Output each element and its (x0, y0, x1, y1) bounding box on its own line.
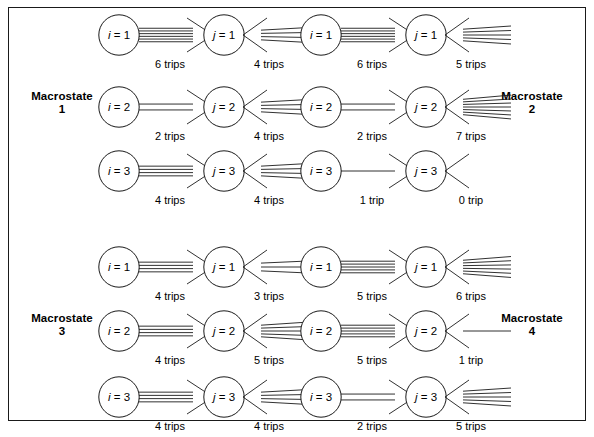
trip-count-label: 1 trip (405, 354, 523, 366)
node-label: j = 1 (405, 14, 447, 56)
node-label: j = 3 (203, 376, 245, 418)
trip-line (463, 388, 511, 391)
equals-sign: = (114, 165, 121, 177)
macrostate-label-number: 1 (14, 103, 110, 116)
arrowhead-stroke (445, 267, 469, 284)
macrostate-label-number: 3 (14, 325, 110, 338)
node-index: 2 (229, 101, 235, 113)
trip-line (463, 95, 511, 99)
node-index: 1 (229, 29, 235, 41)
node-label: i = 2 (98, 86, 140, 128)
trip-line (463, 261, 511, 263)
macrostate-label-word: Macrostate (31, 90, 93, 102)
node-symbol: i (108, 261, 111, 273)
node-index: 3 (431, 165, 437, 177)
equals-sign: = (219, 391, 226, 403)
trip-count-label: 5 trips (300, 354, 418, 366)
trip-count-label: 6 trips (98, 58, 216, 70)
node-symbol: i (310, 101, 313, 113)
equals-sign: = (219, 325, 226, 337)
node-label: i = 2 (98, 310, 140, 352)
node-index: 1 (326, 261, 332, 273)
trip-count-label: 1 trip (300, 194, 418, 206)
equals-sign: = (316, 325, 323, 337)
node-label: i = 1 (300, 14, 342, 56)
node-symbol: j (415, 391, 418, 403)
node-label: j = 3 (203, 150, 245, 192)
arrow-unit-i1-r3-c2: i = 15 trips (300, 246, 418, 308)
node-index: 1 (431, 261, 437, 273)
trip-line (463, 103, 511, 104)
arrowhead-stroke (445, 250, 469, 267)
node-label: i = 1 (98, 246, 140, 288)
arrow-unit-i1-r0-c2: i = 16 trips (300, 14, 418, 76)
equals-sign: = (316, 391, 323, 403)
node-index: 2 (229, 325, 235, 337)
arrowhead-stroke (243, 154, 267, 171)
arrow-unit-i3-r5-c0: i = 34 trips (98, 376, 216, 437)
node-label: j = 2 (203, 86, 245, 128)
node-symbol: i (310, 165, 313, 177)
arrow-unit-j1-r0-c3: j = 15 trips (405, 14, 523, 76)
trip-line (463, 31, 511, 33)
trip-line (463, 99, 511, 102)
trip-count-label: 5 trips (405, 420, 523, 432)
equals-sign: = (114, 101, 121, 113)
arrowhead-stroke (243, 250, 267, 267)
node-index: 2 (326, 101, 332, 113)
macrostate-label-3: Macrostate3 (14, 312, 110, 338)
trip-line (463, 393, 511, 395)
trip-line (463, 403, 511, 406)
arrow-unit-i2-r1-c0: i = 22 trips (98, 86, 216, 148)
figure-root: Macrostate1Macrostate2Macrostate3Macrost… (0, 0, 594, 437)
arrowhead-stroke (243, 267, 267, 284)
node-symbol: j (415, 29, 418, 41)
arrowhead-stroke (243, 380, 267, 397)
equals-sign: = (421, 261, 428, 273)
arrow-unit-j2-r4-c3: j = 21 trip (405, 310, 523, 372)
arrowhead-stroke (243, 35, 267, 52)
node-index: 3 (124, 391, 130, 403)
node-index: 1 (326, 29, 332, 41)
arrowhead-stroke (243, 18, 267, 35)
node-symbol: i (108, 29, 111, 41)
node-label: j = 2 (405, 86, 447, 128)
arrowhead-stroke (445, 314, 469, 331)
arrow-unit-j1-r3-c3: j = 16 trips (405, 246, 523, 308)
node-symbol: j (213, 325, 216, 337)
arrow-unit-i2-r4-c0: i = 24 trips (98, 310, 216, 372)
node-label: j = 1 (405, 246, 447, 288)
node-label: i = 1 (98, 14, 140, 56)
arrowhead-stroke (445, 171, 469, 188)
node-symbol: j (213, 101, 216, 113)
equals-sign: = (421, 325, 428, 337)
node-index: 1 (124, 261, 130, 273)
trip-line (463, 268, 511, 269)
node-label: j = 1 (203, 246, 245, 288)
node-symbol: i (108, 325, 111, 337)
trip-line (463, 112, 511, 115)
trip-count-label: 4 trips (98, 290, 216, 302)
arrow-unit-i1-r0-c0: i = 16 trips (98, 14, 216, 76)
node-label: i = 3 (300, 150, 342, 192)
arrow-unit-j3-r5-c3: j = 35 trips (405, 376, 523, 437)
node-index: 3 (124, 165, 130, 177)
node-label: j = 2 (203, 310, 245, 352)
equals-sign: = (316, 165, 323, 177)
trip-line (463, 115, 511, 119)
equals-sign: = (114, 325, 121, 337)
node-index: 2 (124, 101, 130, 113)
equals-sign: = (219, 101, 226, 113)
equals-sign: = (421, 391, 428, 403)
node-symbol: i (310, 325, 313, 337)
trip-line (463, 265, 511, 266)
node-label: j = 2 (405, 310, 447, 352)
trip-count-label: 2 trips (300, 420, 418, 432)
trip-count-label: 6 trips (300, 58, 418, 70)
arrow-unit-i3-r2-c0: i = 34 trips (98, 150, 216, 212)
node-symbol: j (415, 261, 418, 273)
equals-sign: = (114, 29, 121, 41)
node-label: i = 3 (98, 376, 140, 418)
node-symbol: i (310, 29, 313, 41)
node-index: 2 (431, 101, 437, 113)
